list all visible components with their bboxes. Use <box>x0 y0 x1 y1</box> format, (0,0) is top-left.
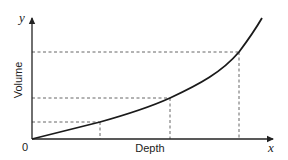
guide-lines <box>32 52 239 139</box>
origin-label: 0 <box>22 141 28 153</box>
y-axis-label: Volume <box>12 62 24 99</box>
y-axis-symbol: y <box>17 10 25 25</box>
volume-curve <box>32 18 262 139</box>
x-axis-label: Depth <box>135 142 164 154</box>
x-axis-symbol: x <box>267 140 274 155</box>
volume-depth-diagram: y x 0 Depth Volume <box>0 0 288 160</box>
